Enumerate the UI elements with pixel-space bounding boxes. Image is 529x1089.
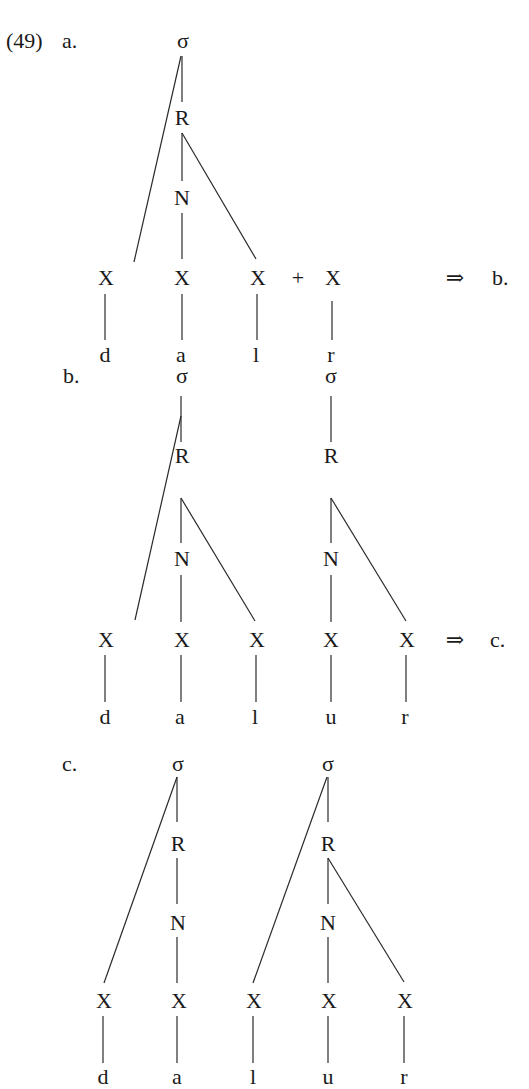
edge-rhyme-coda <box>181 498 255 621</box>
segment: r <box>400 1064 408 1089</box>
segment: d <box>100 342 111 367</box>
timing-slot: X <box>171 988 187 1013</box>
timing-slot: X <box>323 627 339 652</box>
edge-sigma-onset <box>135 416 181 620</box>
timing-slot: X <box>246 988 262 1013</box>
rhyme-node: R <box>171 831 186 856</box>
timing-slot: X <box>250 265 266 290</box>
timing-slot: X <box>397 988 413 1013</box>
nucleus-node: N <box>320 910 336 935</box>
example-number: (49) <box>6 28 43 53</box>
timing-slot: X <box>98 627 114 652</box>
syllable-structure-diagram: (49) a. σ R N X X X + X d a l r ⇒ b. b. … <box>0 0 529 1089</box>
panel-label-b: b. <box>63 363 80 388</box>
timing-slot: X <box>399 627 415 652</box>
derivation-arrow-icon: ⇒ <box>446 627 464 652</box>
panel-label-c: c. <box>62 751 77 776</box>
segment: u <box>326 704 337 729</box>
edge-rhyme-coda <box>182 133 256 259</box>
segment: l <box>252 704 258 729</box>
timing-slot: X <box>96 988 112 1013</box>
timing-slot: X <box>174 627 190 652</box>
timing-slot: X <box>174 265 190 290</box>
derivation-arrow-icon: ⇒ <box>446 265 464 290</box>
edge-rhyme-coda <box>331 498 406 621</box>
sigma-node: σ <box>322 751 334 776</box>
timing-slot: X <box>98 265 114 290</box>
sigma-node: σ <box>176 363 188 388</box>
nucleus-node: N <box>170 910 186 935</box>
edge-sigma-onset <box>253 777 327 983</box>
edge-sigma-onset <box>134 56 181 262</box>
segment: u <box>323 1064 334 1089</box>
segment: l <box>253 342 259 367</box>
edge-sigma-onset <box>104 777 177 983</box>
nucleus-node: N <box>174 185 190 210</box>
panel-label-a: a. <box>62 28 77 53</box>
edge-rhyme-coda <box>328 858 404 982</box>
panel-b: b. σ R N σ R N X X X X X d a l u r ⇒ <box>63 363 505 729</box>
nucleus-node: N <box>174 546 190 571</box>
segment: d <box>100 704 111 729</box>
timing-slot: X <box>249 627 265 652</box>
sigma-node: σ <box>177 28 189 53</box>
plus-sign: + <box>292 265 304 290</box>
segment: a <box>175 704 185 729</box>
nucleus-node: N <box>323 546 339 571</box>
panel-c: c. σ R N σ R N X X X X X d a l u r <box>62 751 413 1089</box>
rhyme-node: R <box>175 443 190 468</box>
segment: a <box>172 1064 182 1089</box>
timing-slot: X <box>325 265 341 290</box>
rhyme-node: R <box>175 105 190 130</box>
next-panel-ref: b. <box>492 265 509 290</box>
segment: r <box>401 704 409 729</box>
rhyme-node: R <box>324 443 339 468</box>
segment: l <box>250 1064 256 1089</box>
panel-a: (49) a. σ R N X X X + X d a l r ⇒ b. <box>6 28 509 367</box>
segment: d <box>98 1064 109 1089</box>
next-panel-ref: c. <box>490 627 505 652</box>
timing-slot: X <box>321 988 337 1013</box>
rhyme-node: R <box>321 831 336 856</box>
sigma-node: σ <box>172 751 184 776</box>
sigma-node: σ <box>325 363 337 388</box>
